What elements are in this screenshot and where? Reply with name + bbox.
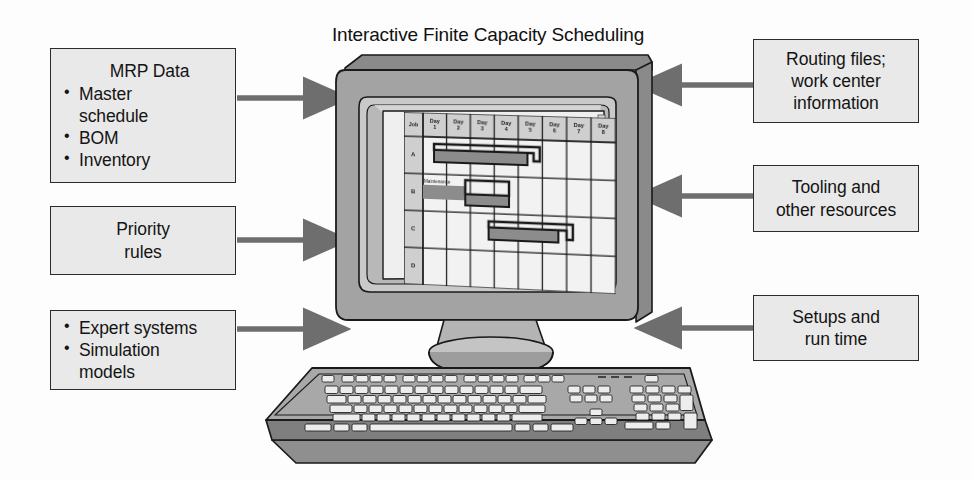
- gantt-header-day-1: Day1: [423, 118, 447, 131]
- gantt-header-day-6: Day6: [542, 121, 566, 134]
- box-setups[interactable]: Setups and run time: [753, 295, 919, 361]
- gantt-header-job: Job: [404, 121, 423, 128]
- box-setups-line-2: run time: [805, 328, 867, 350]
- diagram-canvas: Job Day1 Day2 Day3 Day4 Day5 Day6 Day7 D…: [0, 0, 972, 481]
- gantt-maintenance-label: Maintenance: [424, 179, 450, 185]
- gantt-row-label-d: D: [411, 262, 415, 268]
- box-tooling-line-1: Tooling and: [792, 176, 880, 198]
- box-expert-systems-bullets: Expert systems Simulation models: [64, 317, 235, 383]
- gantt-chart[interactable]: Job Day1 Day2 Day3 Day4 Day5 Day6 Day7 D…: [404, 112, 616, 294]
- gantt-header-day-7: Day7: [567, 122, 591, 135]
- box-priority-rules[interactable]: Priority rules: [50, 206, 236, 275]
- keyboard[interactable]: [266, 368, 712, 463]
- ctrl-key: [305, 424, 331, 431]
- gantt-svg: [404, 112, 616, 294]
- monitor-stand: [429, 320, 553, 374]
- spacebar: [370, 424, 512, 431]
- gantt-row-label-a: A: [411, 151, 415, 157]
- arrow-left-key: [575, 418, 587, 425]
- box-mrp-data-bullets: Master schedule BOM Inventory: [64, 83, 235, 171]
- gantt-header-day-3: Day3: [470, 119, 494, 132]
- gantt-row-label-c: C: [411, 225, 415, 231]
- box-routing-files[interactable]: Routing files; work center information: [753, 39, 919, 123]
- box-setups-line-1: Setups and: [792, 306, 880, 328]
- box-priority-rules-line-1: Priority: [116, 218, 170, 240]
- box-tooling[interactable]: Tooling and other resources: [753, 165, 919, 232]
- box-routing-files-line-1: Routing files;: [786, 48, 886, 70]
- arrow-down-key: [590, 418, 602, 425]
- arrow-right-key: [605, 418, 617, 425]
- bullet-simulation-models: Simulation models: [64, 339, 235, 383]
- gantt-header-day-2: Day2: [447, 118, 471, 131]
- gantt-row-label-b: B: [411, 188, 415, 194]
- box-routing-files-line-2: work center: [791, 70, 880, 92]
- box-tooling-line-2: other resources: [776, 199, 896, 221]
- gantt-header-day-4: Day4: [494, 120, 518, 133]
- bullet-expert-systems: Expert systems: [64, 317, 235, 339]
- box-priority-rules-line-2: rules: [124, 241, 161, 263]
- box-mrp-data[interactable]: MRP Data Master schedule BOM Inventory: [50, 48, 236, 183]
- spacebar-row: [305, 424, 573, 431]
- arrow-up-key: [590, 409, 602, 416]
- bullet-master-schedule: Master schedule: [64, 83, 235, 127]
- page-title: Interactive Finite Capacity Scheduling: [268, 24, 708, 46]
- box-mrp-data-heading: MRP Data: [64, 60, 235, 82]
- gantt-header-day-5: Day5: [518, 120, 542, 133]
- bullet-bom: BOM: [64, 127, 235, 149]
- box-routing-files-line-3: information: [793, 92, 878, 114]
- gantt-header-day-8: Day8: [591, 122, 616, 135]
- box-expert-systems[interactable]: Expert systems Simulation models: [50, 310, 236, 390]
- bullet-inventory: Inventory: [64, 149, 235, 171]
